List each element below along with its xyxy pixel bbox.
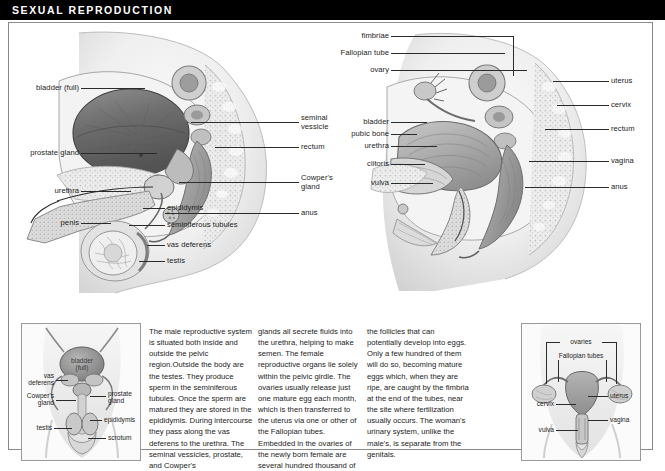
inset-leader-fallopian-left-drop (558, 360, 559, 382)
label-cervix: cervix (611, 101, 631, 110)
inset-leader-ovaries-bar (546, 342, 560, 343)
inset-leader-ovaries-right-drop (616, 342, 617, 384)
label-ovary: ovary (339, 66, 389, 75)
label-seminiferous-tubules: seminiferous tubules (167, 221, 238, 230)
leader-vas-deferens (147, 245, 165, 246)
label-rectum-female: rectum (611, 125, 635, 134)
inset-label-scrotum: scrotum (108, 434, 131, 441)
label-anus-female: anus (611, 183, 628, 192)
label-vagina: vagina (611, 157, 634, 166)
inset-leader-testis (54, 428, 72, 429)
inset-leader-ovaries-bar-right (602, 342, 616, 343)
page-title: SEXUAL REPRODUCTION (12, 4, 173, 16)
leader-uterus (553, 81, 609, 82)
inset-label-uterus: uterus (610, 392, 628, 399)
inset-label-testis: testis (22, 424, 52, 431)
leader-anus-female (525, 187, 609, 188)
inset-leader-ovaries-left-drop (546, 342, 547, 384)
label-cowpers-gland: Cowper's gland (301, 174, 333, 191)
inset-label-prostate-gland: prostate gland (108, 390, 132, 405)
leader-prostate-gland (81, 153, 157, 154)
inset-label-epididymis: epididymis (104, 416, 135, 423)
inset-label-cowpers-gland: Cowper's gland (22, 392, 54, 407)
leader-anus (165, 213, 299, 214)
inset-label-cervix: cervix (524, 400, 554, 407)
label-rectum: rectum (301, 143, 325, 152)
inset-label-bladder-full: bladder (full) (60, 357, 104, 372)
body-text-column-2: glands all secrete fluids into the ureth… (258, 326, 362, 471)
label-urethra: urethra (21, 187, 79, 196)
leader-seminiferous-tubules (129, 225, 165, 226)
female-diagram: fimbriae Fallopian tube ovary bladder pu… (339, 29, 644, 297)
leader-urethra-female (391, 146, 437, 147)
inset-leader-vas-deferens (56, 380, 68, 381)
inset-leader-epididymis (90, 420, 102, 421)
leader-vulva (391, 183, 433, 184)
inset-leader-vulva (556, 430, 578, 431)
label-clitoris: clitoris (339, 160, 389, 169)
inset-label-vagina: vagina (610, 416, 629, 423)
leader-cowpers-gland (179, 182, 299, 183)
label-bladder-full: bladder (full) (21, 84, 79, 93)
leader-rectum (215, 147, 299, 148)
male-diagram: bladder (full) prostate gland urethra pe… (19, 29, 339, 297)
leader-urethra (81, 191, 131, 192)
leader-ovary (391, 70, 527, 71)
label-prostate-gland: prostate gland (21, 149, 79, 158)
label-vulva: vulva (339, 179, 389, 188)
inset-label-vulva: vulva (524, 426, 554, 433)
inset-label-fallopian-tubes: Fallopian tubes (548, 352, 614, 359)
label-seminal-vessicle: seminal vessicle (301, 114, 328, 131)
label-bladder: bladder (339, 118, 389, 127)
inset-leader-prostate-gland (90, 396, 106, 397)
leader-vagina (529, 161, 609, 162)
body-text-column-1: The male reproductive system is situated… (149, 326, 253, 471)
inset-leader-cervix (556, 404, 576, 405)
leader-bladder (391, 122, 427, 123)
leader-cervix (557, 105, 609, 106)
label-pubic-bone: pubic bone (339, 130, 389, 139)
inset-female-panel: ovaries Fallopian tubes cervix vulva ute… (521, 323, 641, 461)
inset-male-panel: bladder (full) vas deferens Cowper's gla… (21, 323, 141, 461)
inset-label-ovaries: ovaries (560, 338, 602, 345)
label-uterus: uterus (611, 77, 632, 86)
inset-label-vas-deferens: vas deferens (22, 372, 54, 387)
leader-seminal-vessicle (191, 122, 299, 123)
label-vas-deferens: vas deferens (167, 241, 211, 250)
label-anus: anus (301, 209, 318, 218)
leader-rectum-female (545, 129, 609, 130)
leader-fallopian-tube (391, 53, 505, 54)
label-urethra-female: urethra (339, 142, 389, 151)
leader-testis (139, 261, 165, 262)
inset-leader-scrotum (88, 438, 106, 439)
leader-clitoris (391, 164, 425, 165)
inset-leader-fallopian-right-drop (606, 360, 607, 382)
label-penis: penis (21, 219, 79, 228)
leader-pubic-bone (391, 134, 417, 135)
inset-leader-vagina (588, 420, 608, 421)
label-fallopian-tube: Fallopian tube (339, 49, 389, 58)
leader-penis (81, 223, 111, 224)
body-text-column-3: the follicles that can potentially devel… (367, 326, 471, 460)
leader-bladder-full (81, 88, 145, 89)
inset-leader-uterus (588, 396, 608, 397)
leader-epididymis (143, 208, 165, 209)
label-testis: testis (167, 257, 185, 266)
label-epididymis: epididymis (167, 204, 203, 213)
leader-fimbriae (391, 36, 513, 37)
label-fimbriae: fimbriae (339, 32, 389, 41)
content-frame: bladder (full) prostate gland urethra pe… (8, 22, 653, 450)
inset-leader-cowpers-gland (56, 400, 76, 401)
